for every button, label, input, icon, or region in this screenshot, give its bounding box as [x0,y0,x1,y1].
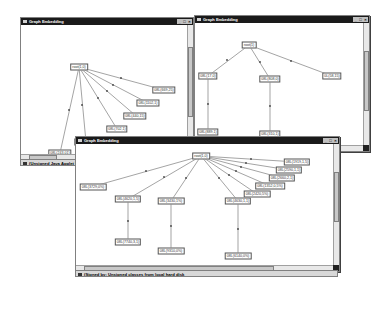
scroll-thumb[interactable] [364,51,369,111]
title-bar[interactable]: Graph Embedding _ □ × [76,137,339,144]
graph-node[interactable]: 08L(9310,0%) [158,248,185,255]
scroll-thumb[interactable] [188,47,193,117]
warning-icon [78,273,82,277]
graph-node[interactable]: 08L(2660,2,1) [269,175,295,182]
graph-node[interactable]: 08L(889,1) [197,129,218,136]
window-title: Graph Embedding [29,19,64,24]
graph-node[interactable]: 08L(669,25) [152,87,175,94]
close-button[interactable]: × [187,19,192,24]
graph-node[interactable]: 08L(7740,3,1) [115,239,141,246]
graph-node[interactable]: 08L(702,1) [106,126,127,133]
title-bar[interactable]: Graph Embedding _ □ × [195,16,369,23]
graph-window-3[interactable]: Graph Embedding _ □ × root(1,0) 08L(1919… [75,136,340,272]
graph-node[interactable]: root(1) [242,42,257,49]
vertical-scrollbar[interactable] [333,144,339,265]
vertical-scrollbar[interactable] [363,23,369,145]
graph-node[interactable]: 08L(3729,0%) [80,184,107,191]
graph-node[interactable]: 08L(17,0) [198,73,217,80]
scroll-thumb[interactable] [334,172,339,222]
vertical-scrollbar[interactable] [187,25,193,154]
graph-node[interactable]: 08L(1919,1,5) [284,159,310,166]
window-title: Graph Embedding [203,17,238,22]
system-menu-icon[interactable] [78,139,82,142]
graph-node[interactable]: 0L(58,15) [322,73,341,80]
graph-node[interactable]: 08L(2420,5%) [244,191,271,198]
resize-grip[interactable] [363,145,369,151]
graph-node[interactable]: 08L(2590,1,1) [276,167,302,174]
graph-node[interactable]: 08L(1102,1) [136,100,159,107]
graph-node[interactable]: 08L(4620,1,5) [115,196,141,203]
graph-edges [195,23,363,145]
warning-icon [23,162,27,166]
graph-node[interactable]: 08L(808,0) [259,76,280,83]
graph-node[interactable]: 08L(3430,1%) [158,198,185,205]
graph-node[interactable]: 08L(1352,0,5%) [255,183,285,190]
graph-node[interactable]: root(1,0) [70,64,88,71]
graph-node[interactable]: 08L(4630,1,1) [225,198,251,205]
status-bar: (Signed by: Unsigned classes from local … [75,270,338,277]
graph-window-2[interactable]: Graph Embedding _ □ × root(1) 08L(17,0) … [194,15,370,152]
graph-node[interactable]: 08L(6140,0%) [225,253,252,260]
graph-canvas[interactable]: root(1) 08L(17,0) 08L(808,0) 0L(58,15) 0… [195,23,363,145]
window-title: Graph Embedding [84,138,119,143]
graph-node[interactable]: 08L(440,15) [123,113,146,120]
system-menu-icon[interactable] [23,20,27,23]
system-menu-icon[interactable] [197,18,201,21]
title-bar[interactable]: Graph Embedding _ □ × [21,18,193,25]
status-text: (Signed by: Unsigned classes from local … [84,272,184,277]
graph-node[interactable]: root(1,0) [192,153,210,160]
graph-canvas[interactable]: root(1,0) 08L(669,25) 08L(1102,1) 08L(44… [21,25,187,154]
graph-canvas[interactable]: root(1,0) 08L(1919,1,5) 08L(2590,1,1) 08… [76,144,333,265]
close-button[interactable]: × [333,138,338,143]
close-button[interactable]: × [363,17,368,22]
